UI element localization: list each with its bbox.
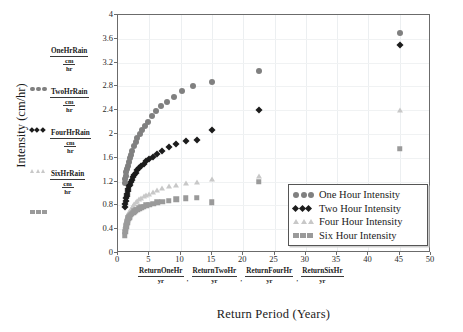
x-tick-mark	[242, 252, 243, 255]
fraction-denominator: cmhr	[50, 57, 88, 73]
separator-comma: ,	[296, 274, 298, 284]
legend-item-circle[interactable]: One Hour Intensity	[293, 188, 422, 202]
x-tick-mark	[117, 252, 118, 255]
x-tick-label: 45	[394, 254, 403, 264]
data-point	[183, 196, 189, 202]
data-point	[397, 30, 403, 36]
gridline-vertical	[149, 15, 150, 251]
gridline-horizontal	[118, 158, 429, 159]
fraction-denominator: yr	[138, 277, 184, 285]
data-point	[173, 141, 180, 148]
y-axis-title: Intensity (cm/hr)	[14, 61, 29, 191]
data-point	[193, 136, 200, 143]
fraction-denominator: yr	[192, 277, 238, 285]
triangle-legend-icon	[293, 219, 299, 224]
x-tick-label: 40	[363, 254, 372, 264]
data-point	[173, 182, 179, 187]
fraction-numerator: FourHrRain	[50, 130, 91, 139]
gridline-vertical	[243, 15, 244, 251]
fraction-label: OneHrRaincmhr	[50, 48, 88, 72]
data-point	[190, 83, 196, 89]
legend-item-diamond[interactable]: Two Hour Intensity	[293, 202, 422, 216]
gridline-horizontal	[118, 39, 429, 40]
circle-legend-icon	[301, 192, 307, 198]
legend-item-label: One Hour Intensity	[315, 189, 400, 200]
bottom-return-descriptors: ReturnOneHryr,ReturnTwoHryr,ReturnFourHr…	[138, 268, 344, 284]
data-point	[166, 184, 172, 189]
x-tick-mark	[274, 252, 275, 255]
fraction-label: ReturnFourHryr	[245, 268, 293, 284]
x-tick-mark	[336, 252, 337, 255]
chart-legend[interactable]: One Hour IntensityTwo Hour IntensityFour…	[288, 184, 428, 246]
fraction-denominator: yr	[245, 277, 293, 285]
data-point	[153, 108, 159, 114]
x-tick-label: 0	[115, 254, 119, 264]
y-tick-label: 3.6	[102, 33, 113, 43]
triangle-legend-icon	[308, 219, 314, 224]
legend-marker-group	[293, 233, 315, 239]
data-point	[256, 173, 262, 178]
data-point	[179, 88, 185, 94]
fraction-denominator: cmhr	[50, 139, 91, 155]
x-tick-mark	[211, 252, 212, 255]
data-point	[182, 138, 189, 145]
x-tick-label: 10	[175, 254, 184, 264]
legend-item-square[interactable]: Six Hour Intensity	[293, 229, 422, 243]
y-tick-mark	[114, 133, 117, 134]
unit-denominator: hr	[50, 65, 88, 72]
data-point	[209, 176, 215, 181]
chart-root: Intensity (cm/hr) OneHrRaincmhrTwoHrRain…	[0, 0, 463, 332]
fraction-numerator: ReturnSixHr	[301, 268, 343, 277]
separator-comma: ,	[240, 274, 242, 284]
unit-numerator: cm	[64, 139, 76, 147]
separator-comma: ,	[187, 274, 189, 284]
y-tick-label: 2.4	[102, 104, 113, 114]
triangle-legend-icon	[301, 219, 307, 224]
y-tick-mark	[114, 204, 117, 205]
y-tick-label: 0.4	[102, 223, 113, 233]
fraction-label: TwoHrRaincmhr	[50, 89, 89, 113]
square-legend-icon	[307, 233, 313, 239]
fraction-numerator: SixHrRain	[50, 171, 85, 180]
x-tick-label: 35	[332, 254, 341, 264]
unit-numerator: cm	[63, 98, 75, 106]
series-swatch-group	[30, 210, 47, 215]
square-swatch-icon	[42, 210, 47, 215]
x-tick-mark	[430, 252, 431, 255]
gridline-horizontal	[118, 86, 429, 87]
data-point	[149, 113, 155, 119]
legend-marker-group	[293, 219, 315, 224]
data-point	[209, 200, 215, 206]
unit-numerator: yr	[138, 277, 184, 284]
unit-numerator: cm	[63, 57, 75, 65]
data-point	[183, 180, 189, 185]
legend-item-triangle[interactable]: Four Hour Intensity	[293, 215, 422, 229]
x-tick-mark	[180, 252, 181, 255]
data-point	[171, 94, 177, 100]
x-tick-label: 50	[426, 254, 435, 264]
unit-numerator: yr	[192, 277, 238, 284]
fraction-denominator: cmhr	[50, 180, 85, 196]
x-tick-mark	[305, 252, 306, 255]
y-tick-label: 1.2	[102, 176, 113, 186]
data-point	[165, 144, 172, 151]
fraction-numerator: ReturnTwoHr	[192, 268, 238, 277]
unit-numerator: yr	[245, 277, 293, 284]
diamond-legend-icon	[305, 205, 312, 212]
fraction-label: SixHrRaincmhr	[50, 171, 85, 195]
data-point	[194, 195, 200, 201]
y-tick-label: 0.8	[102, 199, 113, 209]
x-tick-label: 30	[301, 254, 310, 264]
left-series-descriptors: OneHrRaincmhrTwoHrRaincmhrFourHrRaincmhr…	[30, 48, 114, 212]
legend-item-label: Four Hour Intensity	[315, 216, 402, 227]
y-tick-mark	[114, 157, 117, 158]
y-tick-mark	[114, 109, 117, 110]
gridline-vertical	[275, 15, 276, 251]
x-tick-label: 15	[207, 254, 216, 264]
series-descriptor: FourHrRaincmhr	[30, 130, 114, 171]
circle-legend-icon	[293, 192, 299, 198]
data-point	[145, 119, 151, 125]
x-tick-label: 5	[146, 254, 150, 264]
fraction-numerator: OneHrRain	[50, 48, 88, 57]
data-point	[396, 41, 403, 48]
